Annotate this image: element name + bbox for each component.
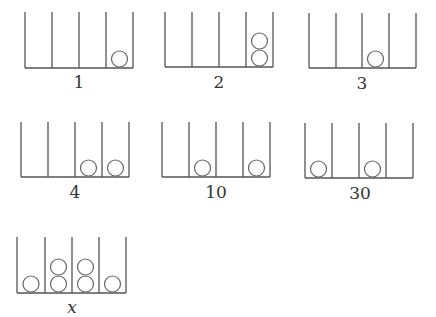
bead	[252, 50, 268, 66]
frame-label-30: 30	[330, 185, 390, 202]
counting-frame-x	[17, 237, 126, 293]
frame-label-4: 4	[45, 184, 105, 201]
bead	[368, 51, 384, 67]
counting-frame-2	[165, 12, 273, 67]
counting-frame-1	[25, 12, 133, 68]
counting-frame-3	[309, 13, 416, 68]
frame-label-x: x	[42, 299, 102, 316]
bead	[249, 160, 265, 176]
bead	[195, 160, 211, 176]
bead	[51, 259, 67, 275]
bead	[105, 276, 121, 292]
frame-label-2: 2	[189, 74, 249, 91]
counting-frame-4	[21, 122, 129, 177]
frame-label-10: 10	[186, 184, 246, 201]
bead	[23, 276, 39, 292]
bead	[365, 161, 381, 177]
bead	[81, 160, 97, 176]
counting-frame-10	[162, 122, 270, 177]
frame-label-1: 1	[49, 74, 109, 91]
frame-label-3: 3	[332, 75, 392, 92]
bead	[252, 33, 268, 49]
bead	[78, 259, 94, 275]
bead	[112, 51, 128, 67]
bead	[311, 161, 327, 177]
bead	[78, 276, 94, 292]
bead	[108, 160, 124, 176]
counting-frame-30	[305, 123, 413, 178]
bead	[51, 276, 67, 292]
